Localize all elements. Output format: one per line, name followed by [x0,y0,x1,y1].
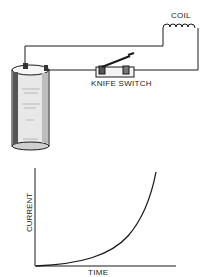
knife-switch-icon [96,53,134,77]
knife-switch-label: KNIFE SWITCH [91,79,152,88]
battery-icon [12,63,49,150]
coil-label: COIL [171,11,191,20]
x-axis-label: TIME [88,268,108,277]
coil-icon [163,24,195,28]
chart-axes [35,168,176,266]
current-curve [36,172,156,266]
y-axis-label: CURRENT [25,193,34,232]
